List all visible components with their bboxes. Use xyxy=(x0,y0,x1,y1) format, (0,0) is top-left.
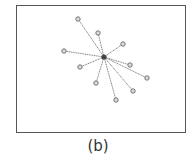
leaf-node xyxy=(94,81,98,85)
leaf-node xyxy=(114,98,118,102)
edge xyxy=(104,57,147,78)
leaf-node xyxy=(78,65,82,69)
leaf-node xyxy=(121,42,125,46)
edges xyxy=(64,19,147,100)
edge xyxy=(104,57,133,91)
leaf-node xyxy=(62,49,66,53)
edge xyxy=(104,57,116,100)
nodes xyxy=(62,17,149,102)
edge xyxy=(104,44,123,57)
edge xyxy=(78,19,104,57)
edge xyxy=(80,57,104,67)
leaf-node xyxy=(128,63,132,67)
leaf-node xyxy=(145,76,149,80)
leaf-node xyxy=(96,31,100,35)
edge xyxy=(96,57,104,83)
figure-caption: (b) xyxy=(0,137,196,155)
edge xyxy=(64,51,104,57)
leaf-node xyxy=(131,89,135,93)
hub-node xyxy=(101,54,106,59)
leaf-node xyxy=(76,17,80,21)
